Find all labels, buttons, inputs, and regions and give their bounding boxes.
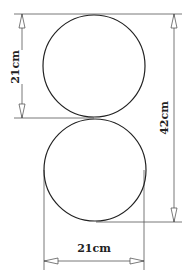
right-dimension: 42cm — [158, 14, 177, 222]
left-dimension: 21cm — [9, 14, 25, 118]
arrow-right-icon — [130, 258, 144, 264]
arrow-left-icon — [44, 258, 58, 264]
arrow-up-icon — [171, 14, 177, 28]
arrow-up-icon — [19, 14, 25, 28]
top-circle — [43, 15, 145, 117]
bottom-dimension-label: 21cm — [77, 242, 111, 255]
bottom-dimension: 21cm — [44, 242, 144, 264]
right-dimension-label: 42cm — [158, 101, 171, 135]
diagram-canvas: 21cm 42cm 21cm — [0, 0, 190, 279]
arrow-down-icon — [19, 104, 25, 118]
left-dimension-label: 21cm — [9, 50, 22, 84]
bottom-circle — [44, 119, 146, 221]
arrow-down-icon — [171, 208, 177, 222]
